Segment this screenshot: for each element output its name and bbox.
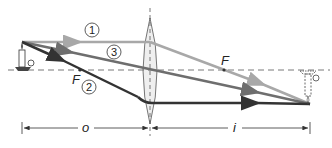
diagram-canvas: F F 1 3 2 o i bbox=[0, 0, 332, 148]
focal-label-left: F bbox=[72, 72, 81, 87]
lens-ray-diagram: F F 1 3 2 o i bbox=[0, 0, 332, 148]
svg-text:1: 1 bbox=[89, 24, 95, 36]
svg-text:2: 2 bbox=[86, 81, 92, 93]
focal-label-right: F bbox=[221, 53, 230, 68]
focal-point-right bbox=[222, 68, 225, 71]
image-distance-dimension: i bbox=[152, 120, 310, 135]
object-distance-label: o bbox=[82, 120, 89, 135]
ray-2-badge: 2 bbox=[82, 80, 96, 94]
svg-text:3: 3 bbox=[111, 46, 117, 58]
image-distance-label: i bbox=[233, 120, 237, 135]
ray-1-badge: 1 bbox=[85, 23, 99, 37]
image-candle-icon bbox=[300, 71, 319, 104]
object-distance-dimension: o bbox=[22, 120, 148, 135]
ray-3-badge: 3 bbox=[107, 45, 121, 59]
ray-3 bbox=[22, 42, 310, 104]
